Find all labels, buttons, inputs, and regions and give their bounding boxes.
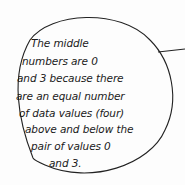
text-line: pair of values 0 — [31, 140, 111, 153]
text-line: numbers are 0 — [22, 55, 98, 68]
speech-bubble-text: The middle numbers are 0 and 3 because t… — [0, 0, 185, 185]
text-line: The middle — [31, 37, 89, 50]
speech-bubble-canvas: The middle numbers are 0 and 3 because t… — [0, 0, 185, 185]
text-line: and 3. — [49, 157, 82, 170]
text-line: and 3 because there — [17, 72, 123, 85]
text-line: above and below the — [25, 123, 133, 136]
text-line: of data values (four) — [19, 107, 124, 120]
text-line: are an equal number — [16, 90, 125, 103]
